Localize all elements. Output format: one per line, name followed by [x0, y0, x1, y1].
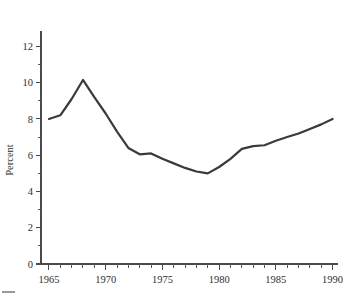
chart-canvas: 024681012 Percent 1965197019751980198519… [0, 0, 350, 298]
x-tick-label: 1970 [95, 274, 116, 285]
x-axis: 196519701975198019851990 [38, 264, 343, 285]
y-tick-label: 2 [28, 222, 33, 233]
data-series-line [49, 80, 333, 173]
y-tick-label: 8 [28, 114, 33, 125]
y-axis-major-ticks [36, 46, 41, 264]
x-tick-label: 1965 [38, 274, 59, 285]
y-tick-label: 12 [23, 41, 34, 52]
y-axis-title: Percent [4, 144, 15, 176]
y-tick-label: 6 [28, 150, 33, 161]
y-axis: 024681012 Percent [4, 31, 41, 270]
y-tick-label: 4 [28, 186, 34, 197]
y-tick-label: 10 [23, 77, 34, 88]
x-axis-tick-labels: 196519701975198019851990 [38, 274, 343, 285]
x-tick-label: 1975 [152, 274, 173, 285]
line-chart: 024681012 Percent 1965197019751980198519… [0, 0, 350, 298]
y-axis-tick-labels: 024681012 [23, 41, 34, 270]
caption-rule [2, 291, 15, 293]
y-tick-label: 0 [28, 259, 33, 270]
x-tick-label: 1980 [209, 274, 230, 285]
x-axis-major-ticks [49, 264, 333, 270]
x-tick-label: 1990 [322, 274, 343, 285]
x-tick-label: 1985 [265, 274, 286, 285]
caption-strip [0, 290, 350, 298]
